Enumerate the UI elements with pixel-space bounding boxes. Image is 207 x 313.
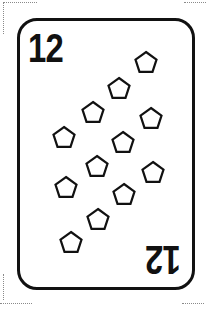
pentagon-icon	[56, 177, 77, 197]
pentagon-icon	[143, 162, 164, 182]
pentagon-icon	[54, 127, 75, 147]
pentagon-icon	[109, 78, 130, 98]
pentagon-icon	[113, 132, 134, 152]
pentagon-icon	[83, 102, 104, 122]
pentagon-icon	[88, 209, 109, 229]
pip-layer	[0, 0, 207, 313]
pentagon-icon	[136, 52, 157, 72]
pentagon-icon	[114, 184, 135, 204]
pentagon-icon	[61, 232, 82, 252]
pentagon-icon	[141, 108, 162, 128]
pentagon-icon	[87, 156, 108, 176]
